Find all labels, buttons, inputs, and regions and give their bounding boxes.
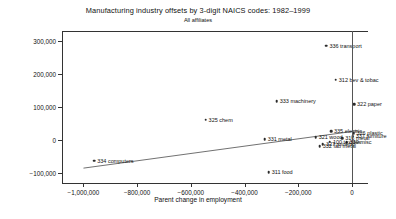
y-tick-label: 300,000 [33,37,56,44]
x-tick-label: −400,000 [231,189,257,196]
chart-title: Manufacturing industry offsets by 3-digi… [0,6,396,15]
data-point-label: 312 bev & tobac [339,77,379,83]
data-point [325,45,328,48]
y-tick-label: 0 [52,137,56,144]
data-point-label: 311 food [272,169,293,175]
plot-area: −100,0000100,000200,000300,000 −1,000,00… [62,31,368,183]
data-point-label: 333 machinery [280,98,316,104]
data-point [314,136,317,139]
data-point-label: 331 metal [268,136,292,142]
chart-figure: Manufacturing industry offsets by 3-digi… [0,0,396,219]
data-point [204,118,207,121]
x-tick-label: −800,000 [124,189,150,196]
data-point [334,79,337,82]
data-point [275,100,278,103]
y-tick-label: −100,000 [30,170,56,177]
zero-vertical-line [352,31,353,183]
data-point [318,145,321,148]
x-axis-line [62,183,368,184]
data-point [263,138,266,141]
y-tick-label: 200,000 [33,70,56,77]
x-tick-label: 0 [350,189,354,196]
data-point [93,160,96,163]
chart-subtitle: All affiliates [0,17,396,23]
data-point-label: 322 paper [357,101,382,107]
x-tick-label: −200,000 [285,189,311,196]
data-point [353,103,356,106]
x-axis-label: Parent change in employment [0,196,396,203]
y-tick-label: 100,000 [33,104,56,111]
data-point-label: 325 chem [209,117,233,123]
data-point [267,171,270,174]
x-tick-label: −600,000 [178,189,204,196]
x-tick-label: −1,000,000 [68,189,100,196]
data-point-label: 334 computers [97,158,133,164]
data-point-label: 336 transport [329,43,361,49]
data-point [330,130,333,133]
